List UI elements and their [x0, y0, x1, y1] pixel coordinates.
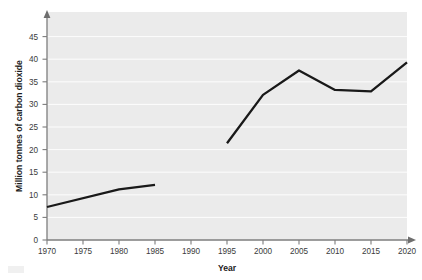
- page-corner-mark: [8, 266, 24, 273]
- y-axis-tick-labels: 0 5 10 15 20 25 30 35 40 45: [29, 33, 39, 245]
- x-tick-label: 2005: [290, 247, 309, 256]
- x-tick-label: 2000: [254, 247, 273, 256]
- x-axis-title: Year: [218, 263, 237, 273]
- chart-figure: 0 5 10 15 20 25 30 35 40 45 197: [0, 0, 422, 280]
- x-tick-label: 1985: [146, 247, 165, 256]
- x-tick-label: 2015: [362, 247, 381, 256]
- x-tick-label: 1995: [218, 247, 237, 256]
- x-tick-label: 1990: [182, 247, 201, 256]
- x-tick-label: 2020: [398, 247, 417, 256]
- x-tick-label: 2010: [326, 247, 345, 256]
- y-tick-label: 30: [29, 100, 39, 109]
- line-chart: 0 5 10 15 20 25 30 35 40 45 197: [0, 0, 422, 280]
- x-tick-label: 1975: [74, 247, 93, 256]
- x-axis-tick-labels: 1970 1975 1980 1985 1990 1995 2000 2005 …: [38, 247, 417, 256]
- y-tick-label: 35: [29, 78, 39, 87]
- y-tick-label: 45: [29, 33, 39, 42]
- y-tick-label: 10: [29, 191, 39, 200]
- y-tick-label: 5: [33, 213, 38, 222]
- x-axis-arrow-icon: [408, 237, 416, 244]
- y-tick-label: 25: [29, 123, 39, 132]
- y-tick-label: 15: [29, 168, 39, 177]
- x-tick-label: 1970: [38, 247, 57, 256]
- x-axis-ticks: [47, 240, 407, 245]
- x-tick-label: 1980: [110, 247, 129, 256]
- plot-area-background: [47, 12, 407, 240]
- y-tick-label: 20: [29, 146, 39, 155]
- y-tick-label: 0: [33, 236, 38, 245]
- y-axis-ticks: [43, 37, 48, 240]
- y-tick-label: 40: [29, 55, 39, 64]
- y-axis-title: Million tonnes of carbon dioxide: [14, 60, 24, 192]
